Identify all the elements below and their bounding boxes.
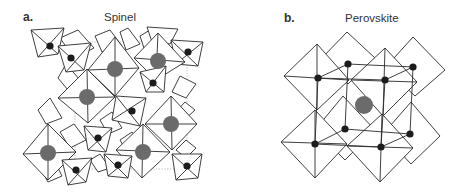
spinel-polyhedra [23, 27, 203, 185]
small-cation-atom [183, 162, 190, 169]
large-cation-atom [79, 89, 95, 105]
small-cation-atom [149, 79, 156, 86]
panel-title-perovskite: Perovskite [345, 12, 399, 24]
large-cation-atom [40, 145, 56, 161]
small-cation-atom [406, 130, 413, 137]
small-cation-atom [114, 161, 121, 168]
panel-label-b: b. [284, 11, 295, 25]
small-cation-atom [344, 60, 351, 67]
panel-spinel: a. Spinel [0, 0, 235, 192]
large-cation-atom [107, 61, 123, 77]
small-cation-atom [94, 134, 101, 141]
small-cation-atom [409, 63, 416, 70]
large-cation-atom [355, 96, 373, 114]
panel-perovskite: b. Perovskite [235, 0, 470, 192]
large-cation-atom [135, 144, 151, 160]
small-cation-atom [46, 42, 53, 49]
small-cation-atom [381, 76, 388, 83]
small-cation-atom [341, 125, 348, 132]
small-cation-atom [184, 48, 191, 55]
panel-label-a: a. [23, 10, 33, 24]
spinel-structure-diagram [0, 0, 235, 192]
small-cation-atom [72, 166, 79, 173]
small-cation-atom [314, 74, 321, 81]
small-cation-atom [67, 54, 74, 61]
small-cation-atom [377, 143, 384, 150]
small-cation-atom [128, 107, 135, 114]
panel-title-spinel: Spinel [104, 11, 136, 23]
perovskite-structure-diagram [235, 0, 470, 192]
small-cation-atom [311, 140, 318, 147]
large-cation-atom [150, 53, 166, 69]
large-cation-atom [163, 116, 179, 132]
